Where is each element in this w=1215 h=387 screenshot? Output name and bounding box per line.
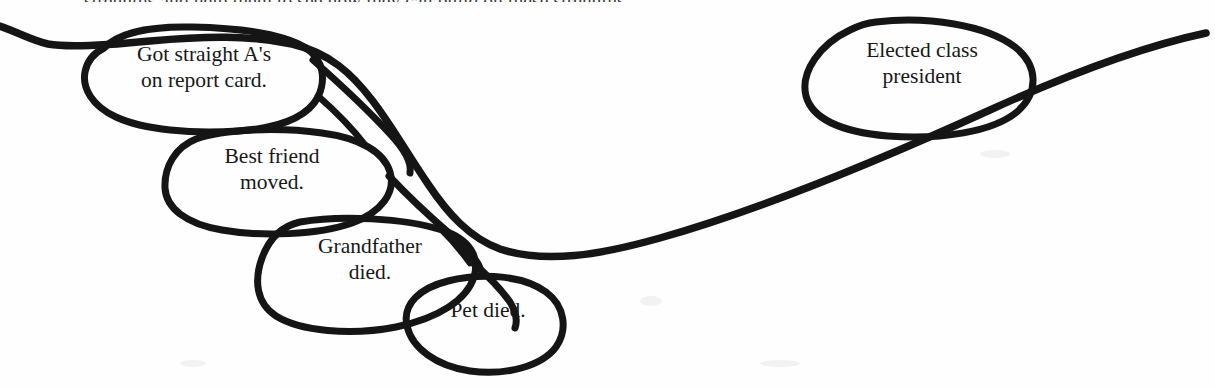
hand-drawn-life-events-figure: strengths and help them to see how they … <box>0 0 1215 387</box>
bubble-outline-elected-class-president <box>805 20 1033 137</box>
connector-stroke-bubble1-to-bubble2 <box>313 60 410 173</box>
connector-stroke-bubble3-to-bubble4 <box>472 262 516 328</box>
bubble-outline-pet-died <box>406 276 563 372</box>
hand-drawn-ink-layer <box>0 0 1215 387</box>
